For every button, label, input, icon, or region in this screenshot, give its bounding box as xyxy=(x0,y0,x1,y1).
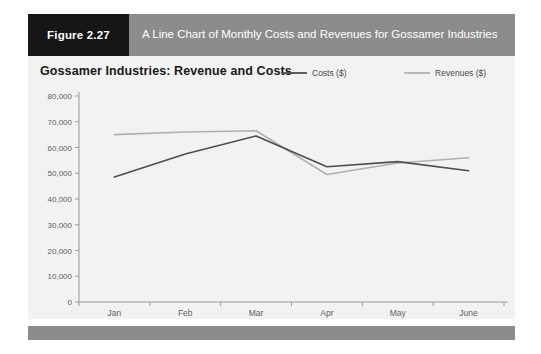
series-line xyxy=(114,136,468,177)
y-axis-tick-label: 30,000 xyxy=(48,221,73,230)
legend-label: Revenues ($) xyxy=(435,68,486,78)
series-line xyxy=(114,131,468,175)
y-axis-tick-label: 10,000 xyxy=(48,272,73,281)
y-axis-tick-label: 80,000 xyxy=(48,92,73,101)
figure-caption: A Line Chart of Monthly Costs and Revenu… xyxy=(129,14,515,56)
figure-root: Figure 2.27 A Line Chart of Monthly Cost… xyxy=(0,0,541,354)
y-axis-tick-label: 0 xyxy=(68,298,73,307)
y-axis-tick-label: 50,000 xyxy=(48,169,73,178)
figure-number-badge: Figure 2.27 xyxy=(28,14,129,56)
y-axis-tick-label: 40,000 xyxy=(48,195,73,204)
y-axis-tick-label: 70,000 xyxy=(48,118,73,127)
line-chart-plot: 80,00070,00060,00050,00040,00030,00020,0… xyxy=(28,56,515,319)
figure-header: Figure 2.27 A Line Chart of Monthly Cost… xyxy=(28,14,515,56)
x-axis-tick-label: Mar xyxy=(249,308,264,318)
x-axis-tick-label: Jan xyxy=(108,308,122,318)
footer-bar xyxy=(28,326,515,340)
legend-label: Costs ($) xyxy=(312,68,347,78)
x-axis-tick-label: May xyxy=(390,308,407,318)
x-axis-tick-label: Apr xyxy=(320,308,333,318)
y-axis-tick-label: 20,000 xyxy=(48,247,73,256)
y-axis-tick-label: 60,000 xyxy=(48,144,73,153)
chart-panel: Gossamer Industries: Revenue and Costs 8… xyxy=(28,56,515,319)
x-axis-tick-label: Feb xyxy=(178,308,193,318)
x-axis-tick-label: June xyxy=(459,308,478,318)
